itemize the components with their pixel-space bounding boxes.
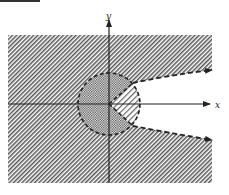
figure-label-bar <box>0 0 40 2</box>
x-axis-label: x <box>215 100 220 110</box>
y-axis-label: y <box>105 11 112 21</box>
region-diagram: y x <box>0 0 229 195</box>
